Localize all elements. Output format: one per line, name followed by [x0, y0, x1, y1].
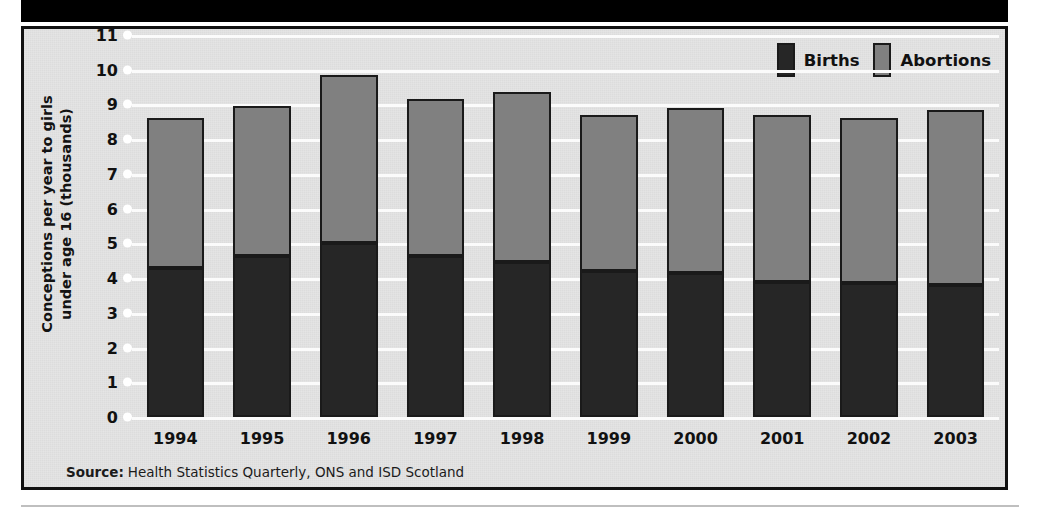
bar-group: 1994: [147, 118, 205, 417]
y-tick-label: 3: [70, 303, 118, 322]
bar-series: 1994199519961997199819992000200120022003: [132, 35, 999, 417]
x-tick-label: 2000: [653, 429, 739, 448]
bar-segment-births: [147, 268, 205, 417]
bar-segment-births: [753, 282, 811, 417]
bar-segment-abortions: [407, 99, 465, 255]
y-tick-dot-icon: [123, 343, 132, 352]
y-tick-dot-icon: [123, 31, 132, 40]
x-tick-label: 2003: [913, 429, 999, 448]
bar-segment-births: [320, 243, 378, 417]
bar-group: 2000: [667, 108, 725, 417]
bar-segment-abortions: [233, 106, 291, 255]
bar-segment-births: [667, 273, 725, 417]
x-tick-label: 1995: [219, 429, 305, 448]
bar-group: 1996: [320, 75, 378, 417]
y-tick-dot-icon: [123, 274, 132, 283]
bar-segment-births: [580, 271, 638, 417]
chart-page: increased number of abortions. Conceptio…: [0, 0, 1040, 515]
y-tick-dot-icon: [123, 204, 132, 213]
source-note: Source: Health Statistics Quarterly, ONS…: [24, 457, 1005, 487]
y-tick-dot-icon: [123, 413, 132, 422]
bar-segment-births: [233, 256, 291, 417]
y-tick-label: 4: [70, 269, 118, 288]
gridline: [132, 417, 999, 420]
y-tick-label: 11: [70, 26, 118, 45]
bar-group: 2003: [927, 110, 985, 417]
bar-group: 1997: [407, 99, 465, 417]
bar-group: 1995: [233, 106, 291, 417]
bar-segment-births: [927, 285, 985, 417]
y-tick-dot-icon: [123, 135, 132, 144]
y-tick-label: 7: [70, 164, 118, 183]
y-tick-label: 10: [70, 60, 118, 79]
y-tick-dot-icon: [123, 308, 132, 317]
chart-frame: Conceptions per year to girls under age …: [21, 26, 1008, 490]
bar-segment-abortions: [667, 108, 725, 273]
bottom-divider: [21, 505, 1019, 507]
y-tick-label: 1: [70, 373, 118, 392]
bar-segment-abortions: [493, 92, 551, 262]
bar-segment-abortions: [927, 110, 985, 285]
bar-segment-abortions: [147, 118, 205, 267]
source-label: Source:: [66, 464, 124, 480]
y-tick-dot-icon: [123, 100, 132, 109]
bar-segment-abortions: [580, 115, 638, 271]
x-tick-label: 1994: [133, 429, 219, 448]
bar-group: 2001: [753, 115, 811, 417]
plot-area: 01234567891011 1994199519961997199819992…: [132, 35, 999, 417]
y-tick-dot-icon: [123, 169, 132, 178]
x-tick-label: 1999: [566, 429, 652, 448]
bar-group: 2002: [840, 118, 898, 417]
source-text: Health Statistics Quarterly, ONS and ISD…: [128, 464, 464, 480]
bar-segment-births: [493, 262, 551, 417]
bar-segment-abortions: [840, 118, 898, 283]
bar-group: 1998: [493, 92, 551, 417]
chart-title-band: increased number of abortions.: [21, 0, 1008, 22]
page-title: increased number of abortions.: [39, 0, 418, 1]
x-tick-label: 2002: [826, 429, 912, 448]
x-tick-label: 1998: [479, 429, 565, 448]
bar-group: 1999: [580, 115, 638, 417]
x-tick-label: 2001: [739, 429, 825, 448]
x-tick-label: 1997: [393, 429, 479, 448]
bar-segment-births: [407, 256, 465, 417]
y-tick-dot-icon: [123, 239, 132, 248]
y-tick-label: 9: [70, 95, 118, 114]
y-tick-label: 5: [70, 234, 118, 253]
y-tick-label: 8: [70, 130, 118, 149]
y-tick-dot-icon: [123, 65, 132, 74]
y-tick-label: 6: [70, 199, 118, 218]
y-axis-title-line1: Conceptions per year to girls: [38, 64, 57, 364]
bar-segment-abortions: [753, 115, 811, 282]
y-tick-dot-icon: [123, 378, 132, 387]
bar-segment-abortions: [320, 75, 378, 243]
y-tick-label: 0: [70, 408, 118, 427]
bar-segment-births: [840, 283, 898, 417]
x-tick-label: 1996: [306, 429, 392, 448]
y-tick-label: 2: [70, 338, 118, 357]
